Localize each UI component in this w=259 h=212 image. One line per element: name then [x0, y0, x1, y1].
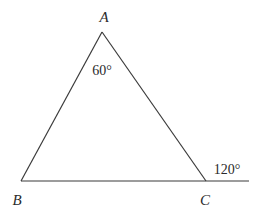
- vertex-label-c: C: [200, 192, 211, 208]
- vertex-label-b: B: [12, 192, 21, 208]
- side-ab: [21, 32, 102, 181]
- exterior-angle-c-label: 120°: [214, 162, 241, 177]
- side-ac: [102, 32, 206, 181]
- triangle-diagram: A B C 60° 120°: [0, 0, 259, 212]
- angle-a-label: 60°: [92, 63, 112, 78]
- vertex-label-a: A: [98, 9, 109, 25]
